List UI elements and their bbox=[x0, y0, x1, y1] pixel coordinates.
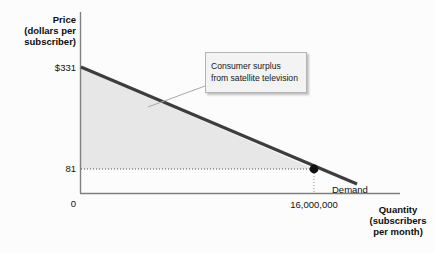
x-tick-label-quantity: 16,000,000 bbox=[262, 199, 366, 210]
equilibrium-point-marker bbox=[310, 165, 319, 174]
economics-chart-figure: Price (dollars per subscriber) Quantity … bbox=[0, 0, 434, 253]
origin-tick-label: 0 bbox=[52, 198, 76, 209]
y-tick-label-331: $331 bbox=[38, 62, 76, 73]
x-axis-title: Quantity (subscribers per month) bbox=[362, 204, 434, 238]
consumer-surplus-callout-box: Consumer surplus from satellite televisi… bbox=[205, 52, 307, 93]
y-axis-title: Price (dollars per subscriber) bbox=[6, 14, 76, 48]
consumer-surplus-callout-text: Consumer surplus from satellite televisi… bbox=[211, 60, 298, 84]
callout-leader-line bbox=[148, 86, 205, 107]
y-tick-label-81: 81 bbox=[44, 163, 76, 174]
demand-curve-label: Demand bbox=[332, 184, 368, 195]
